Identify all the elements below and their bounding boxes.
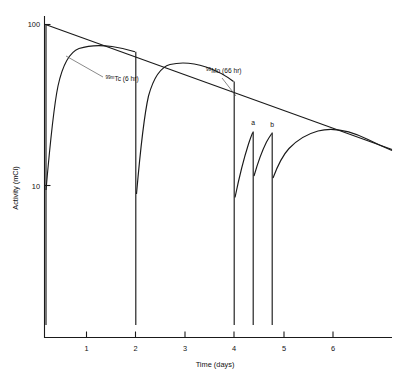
mo99-decay-line <box>46 25 393 150</box>
tc99m-series-label: 99mTc (6 hr) <box>106 74 139 83</box>
y-tick-label-100: 100 <box>28 20 40 29</box>
chart-canvas: 100 10 1 2 3 4 5 6 Time (days) Activity … <box>0 0 396 383</box>
tc99m-ingrowth-segment-2 <box>137 63 234 194</box>
mo99-label-body: Mo (66 hr) <box>211 67 241 75</box>
peak-a-label: a <box>251 119 255 126</box>
tc99m-label-leader <box>66 56 103 77</box>
y-tick-marks <box>45 25 51 186</box>
axes-group <box>45 16 393 338</box>
x-tick-label-3: 3 <box>183 344 187 353</box>
mo99-series-label: 99Mo (66 hr) <box>206 67 242 76</box>
tc99m-ingrowth-segment-4-peak-b <box>254 134 272 177</box>
x-tick-label-2: 2 <box>133 344 137 353</box>
x-tick-label-4: 4 <box>232 344 236 353</box>
generator-decay-figure: 100 10 1 2 3 4 5 6 Time (days) Activity … <box>0 0 396 383</box>
x-tick-label-5: 5 <box>282 344 286 353</box>
tc99m-ingrowth-segment-3-peak-a <box>235 133 253 198</box>
x-axis-title: Time (days) <box>196 360 235 369</box>
tc99m-label-superscript: 99m <box>106 74 115 79</box>
tc99m-ingrowth-segment-1 <box>46 46 135 190</box>
x-tick-label-1: 1 <box>84 344 88 353</box>
peak-b-label: b <box>270 121 274 128</box>
y-axis-title: Activity (mCi) <box>11 166 20 210</box>
tc99m-label-body: Tc (6 hr) <box>114 75 138 83</box>
tc99m-ingrowth-segment-5 <box>273 129 392 178</box>
x-tick-label-6: 6 <box>331 344 335 353</box>
y-tick-label-10: 10 <box>32 182 40 191</box>
x-tick-marks <box>87 332 334 338</box>
